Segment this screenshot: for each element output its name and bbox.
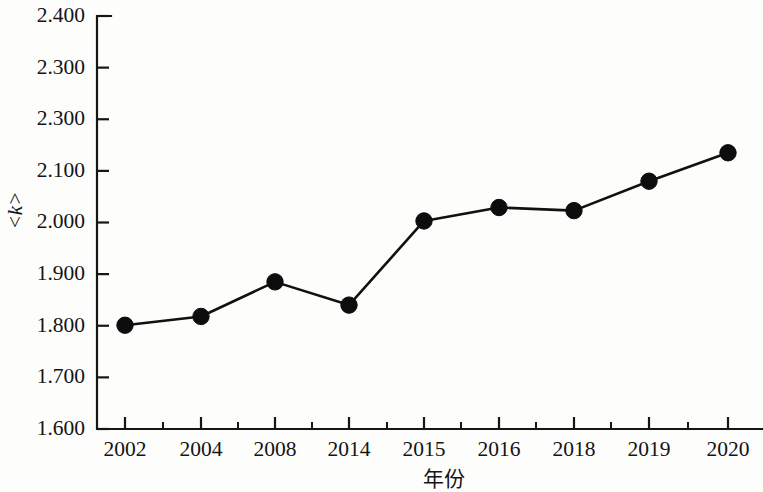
x-tick-label: 2008 [254, 437, 297, 461]
x-tick-label: 2018 [553, 437, 596, 461]
y-axis-title: <k> [3, 192, 27, 230]
x-tick-label: 2002 [104, 437, 147, 461]
y-tick-label: 1.800 [37, 313, 85, 337]
y-tick-label: 2.100 [37, 158, 85, 182]
data-point: 2014: 1.840 [341, 297, 357, 313]
data-point: 2015: 2.003 [416, 213, 432, 229]
x-axis-title: 年份 [423, 467, 465, 491]
x-tick-label: 2004 [180, 437, 223, 461]
data-point: 2002: 1.801 [117, 317, 133, 333]
y-axis-ticks [97, 16, 109, 429]
x-tick-label: 2016 [478, 437, 521, 461]
chart-container: 2.4002.3002.3002.1002.0001.9001.8001.700… [0, 0, 763, 492]
data-point: 2019: 2.080 [641, 173, 657, 189]
x-axis-tick-labels: 200220042008201420152016201820192020 [104, 437, 750, 461]
y-tick-label: 2.400 [37, 3, 85, 27]
y-tick-label: 2.000 [37, 209, 85, 233]
y-axis-tick-labels: 2.4002.3002.3002.1002.0001.9001.8001.700… [37, 3, 85, 440]
x-tick-label: 2020 [707, 437, 750, 461]
data-point: 2016: 2.029 [491, 199, 507, 215]
y-tick-label: 1.600 [37, 416, 85, 440]
x-axis-ticks [125, 417, 728, 429]
data-point: 2020: 2.135 [720, 145, 736, 161]
y-tick-label: 1.700 [37, 364, 85, 388]
x-tick-label: 2014 [328, 437, 371, 461]
series-markers: 2002: 1.8012004: 1.8182008: 1.8852014: 1… [117, 145, 736, 334]
series-line-k [125, 153, 728, 325]
series-group: 2002: 1.8012004: 1.8182008: 1.8852014: 1… [117, 145, 736, 334]
data-point: 2008: 1.885 [267, 274, 283, 290]
data-point: 2004: 1.818 [193, 308, 209, 324]
y-tick-label: 2.300 [37, 106, 85, 130]
data-point: 2018: 2.023 [566, 202, 582, 218]
y-tick-label: 1.900 [37, 261, 85, 285]
y-tick-label: 2.300 [37, 55, 85, 79]
x-tick-label: 2019 [628, 437, 671, 461]
line-chart: 2.4002.3002.3002.1002.0001.9001.8001.700… [0, 0, 763, 492]
x-tick-label: 2015 [403, 437, 446, 461]
